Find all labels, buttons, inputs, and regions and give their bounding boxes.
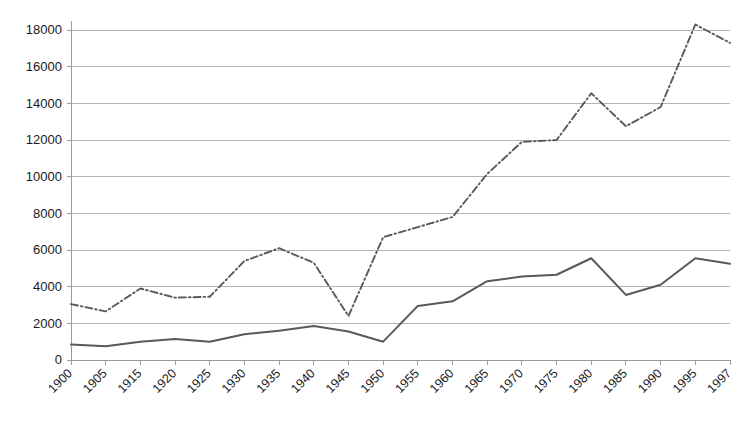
x-tick-label: 1975 (531, 366, 561, 396)
y-tick-label: 16000 (26, 59, 62, 74)
x-tick-label: 1900 (46, 366, 76, 396)
y-tick-label: 8000 (33, 206, 62, 221)
x-tick-label: 1940 (288, 366, 318, 396)
data-series (71, 25, 730, 347)
y-tick-label: 10000 (26, 169, 62, 184)
y-tick-label: 18000 (26, 22, 62, 37)
x-tick-label: 1930 (219, 366, 249, 396)
x-tick-label: 1935 (254, 366, 284, 396)
chart-canvas: 0200040006000800010000120001400016000180… (0, 0, 741, 425)
x-axis-tick-labels: 1900190519151920192519301935194019451950… (46, 366, 735, 396)
x-tick-label: 1995 (670, 366, 700, 396)
series-line-series-2 (71, 258, 730, 346)
y-tick-label: 0 (55, 352, 62, 367)
x-tick-label: 1905 (80, 366, 110, 396)
x-tick-label: 1915 (115, 366, 145, 396)
x-tick-label: 1945 (323, 366, 353, 396)
x-tick-label: 1925 (184, 366, 214, 396)
x-tick-label: 1920 (150, 366, 180, 396)
y-tick-label: 2000 (33, 316, 62, 331)
gridlines (67, 30, 730, 360)
y-tick-label: 6000 (33, 242, 62, 257)
x-axis-ticks (71, 360, 730, 365)
x-tick-label: 1980 (566, 366, 596, 396)
y-axis-tick-labels: 0200040006000800010000120001400016000180… (26, 22, 62, 367)
x-tick-label: 1955 (392, 366, 422, 396)
x-tick-label: 1985 (601, 366, 631, 396)
x-tick-label: 1965 (462, 366, 492, 396)
axis-lines (71, 21, 730, 360)
x-tick-label: 1997 (705, 366, 735, 396)
y-tick-label: 4000 (33, 279, 62, 294)
y-tick-label: 12000 (26, 132, 62, 147)
series-line-series-1 (71, 25, 730, 317)
line-chart: 0200040006000800010000120001400016000180… (0, 0, 741, 425)
x-tick-label: 1970 (496, 366, 526, 396)
x-tick-label: 1960 (427, 366, 457, 396)
y-tick-label: 14000 (26, 96, 62, 111)
x-tick-label: 1950 (358, 366, 388, 396)
x-tick-label: 1990 (635, 366, 665, 396)
